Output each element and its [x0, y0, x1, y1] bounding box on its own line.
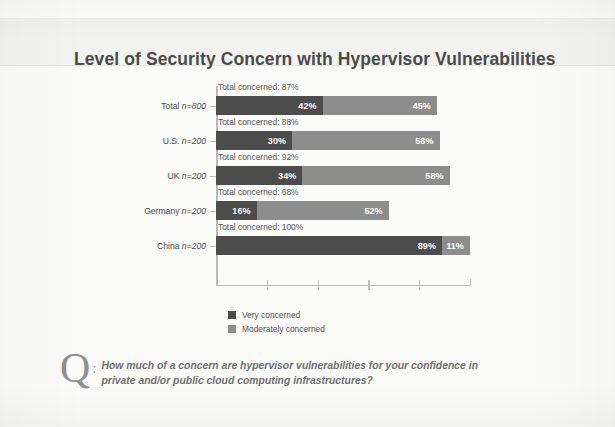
x-axis-tick	[368, 280, 369, 290]
bar-segment-very-concerned: 30%	[216, 131, 292, 150]
category-sample-size: n=200	[182, 171, 206, 181]
bar-value-moderately-concerned: 45%	[413, 101, 431, 111]
x-axis-tick	[318, 280, 319, 290]
stacked-bar: 42%45%	[216, 96, 437, 115]
category-name: China	[157, 241, 182, 251]
bar-segment-very-concerned: 34%	[216, 166, 302, 185]
bar-value-very-concerned: 30%	[268, 136, 286, 146]
total-concerned-label: Total concerned: 92%	[218, 152, 299, 162]
bar-segment-moderately-concerned: 58%	[292, 131, 439, 150]
bar-value-moderately-concerned: 11%	[446, 241, 464, 251]
legend-swatch-icon	[228, 325, 236, 333]
category-label: China n=200	[114, 241, 206, 251]
page-title: Level of Security Concern with Hyperviso…	[74, 49, 556, 70]
bar-value-very-concerned: 34%	[278, 171, 296, 181]
stacked-bar: 30%58%	[216, 131, 440, 150]
category-sample-size: n=200	[182, 206, 206, 216]
x-axis-tick	[470, 279, 471, 286]
legend-swatch-icon	[228, 311, 236, 319]
bar-segment-moderately-concerned: 45%	[323, 96, 437, 115]
bar-value-very-concerned: 16%	[232, 206, 250, 216]
bar-value-very-concerned: 42%	[298, 101, 316, 111]
category-sample-size: n=200	[182, 241, 206, 251]
bar-segment-moderately-concerned: 11%	[442, 236, 470, 255]
x-axis-line	[216, 285, 470, 286]
stacked-bar: 89%11%	[216, 236, 470, 255]
bar-segment-moderately-concerned: 58%	[302, 166, 449, 185]
legend-label: Very concerned	[242, 310, 300, 320]
chart-legend: Very concernedModerately concerned	[228, 309, 325, 337]
bar-value-very-concerned: 89%	[418, 241, 436, 251]
category-name: U.S.	[163, 136, 182, 146]
question-text: How much of a concern are hypervisor vul…	[102, 359, 478, 388]
total-concerned-label: Total concerned: 88%	[218, 117, 299, 127]
bar-value-moderately-concerned: 58%	[415, 136, 433, 146]
question-footer: Q : How much of a concern are hypervisor…	[60, 355, 560, 388]
total-concerned-label: Total concerned: 100%	[218, 222, 303, 232]
total-concerned-label: Total concerned: 87%	[218, 82, 299, 92]
category-name: UK	[168, 171, 182, 181]
category-label: UK n=200	[114, 171, 206, 181]
chart-plot-area: Total concerned: 87%Total n=80042%45%Tot…	[0, 70, 615, 300]
bar-segment-very-concerned: 16%	[216, 201, 257, 220]
slide-page: Level of Security Concern with Hyperviso…	[0, 0, 615, 427]
question-line-1: How much of a concern are hypervisor vul…	[102, 360, 478, 371]
total-concerned-label: Total concerned: 68%	[218, 187, 299, 197]
category-sample-size: n=800	[182, 101, 206, 111]
bar-segment-very-concerned: 42%	[216, 96, 323, 115]
bar-segment-moderately-concerned: 52%	[257, 201, 389, 220]
bar-segment-very-concerned: 89%	[216, 236, 442, 255]
category-label: Germany n=200	[114, 206, 206, 216]
legend-item[interactable]: Moderately concerned	[228, 323, 325, 335]
stacked-bar: 34%58%	[216, 166, 450, 185]
question-colon-glyph: :	[92, 361, 96, 375]
category-label: Total n=800	[114, 101, 206, 111]
category-sample-size: n=200	[182, 136, 206, 146]
x-axis-tick	[419, 280, 420, 290]
question-q-glyph: Q	[60, 351, 90, 385]
category-label: U.S. n=200	[114, 136, 206, 146]
legend-item[interactable]: Very concerned	[228, 309, 325, 321]
bar-value-moderately-concerned: 52%	[364, 206, 382, 216]
x-axis-tick	[267, 280, 268, 290]
bar-value-moderately-concerned: 58%	[425, 171, 443, 181]
stacked-bar: 16%52%	[216, 201, 389, 220]
x-axis-tick	[216, 279, 217, 286]
legend-label: Moderately concerned	[242, 324, 325, 334]
question-line-2: private and/or public cloud computing in…	[102, 374, 478, 389]
y-axis-line	[216, 86, 218, 286]
title-band: Level of Security Concern with Hyperviso…	[0, 18, 615, 66]
category-name: Total	[161, 101, 182, 111]
category-name: Germany	[144, 206, 182, 216]
